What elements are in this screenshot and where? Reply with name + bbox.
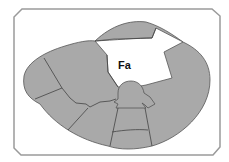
- diagram-canvas: Fa: [0, 0, 229, 162]
- region-label-fa: Fa: [118, 59, 132, 71]
- cross-section-diagram: Fa: [0, 0, 229, 162]
